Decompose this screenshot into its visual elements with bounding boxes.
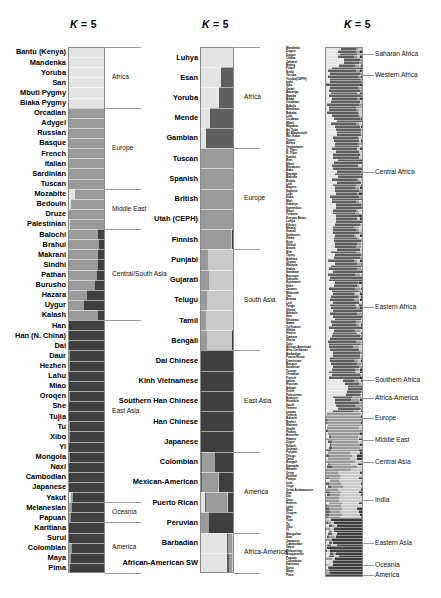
region-label: Saharan Africa <box>375 51 418 58</box>
ancestry-segment <box>69 472 105 483</box>
ancestry-segment <box>104 148 105 159</box>
row-separator <box>68 320 105 321</box>
row-separator <box>325 298 363 299</box>
panel-2-bars[interactable] <box>200 47 234 573</box>
row-separator <box>68 249 105 250</box>
row-separator <box>200 168 234 169</box>
row-separator <box>68 563 105 564</box>
panel-hgdp: K = 5 Bantu (Kenya)MandenkaYorubaSanMbut… <box>0 0 150 598</box>
row-separator <box>325 75 363 76</box>
row-separator <box>325 438 363 439</box>
row-separator <box>325 359 363 360</box>
row-separator <box>200 67 234 68</box>
region-label: America <box>244 489 268 496</box>
row-separator <box>68 219 105 220</box>
row-separator <box>68 401 105 402</box>
region-tick <box>105 320 141 321</box>
ancestry-segment <box>73 492 105 503</box>
population-label: Han <box>52 322 66 329</box>
ancestry-segment <box>70 563 105 573</box>
row-separator <box>68 411 105 412</box>
row-separator <box>325 228 363 229</box>
row-separator <box>68 57 105 58</box>
ancestry-segment <box>207 330 233 351</box>
row-separator <box>325 128 363 129</box>
ancestry-segment <box>201 189 234 210</box>
row-separator <box>325 488 363 489</box>
row-separator <box>325 318 363 319</box>
row-separator <box>325 510 363 511</box>
region-label: Western Africa <box>375 72 418 79</box>
ancestry-segment <box>209 512 234 533</box>
ancestry-segment <box>68 148 104 159</box>
population-label: Maya <box>48 554 67 561</box>
row-separator <box>325 136 363 137</box>
ancestry-segment <box>201 431 234 452</box>
row-separator <box>325 72 363 73</box>
ancestry-segment <box>104 138 105 149</box>
population-label: Sardinian <box>32 170 66 177</box>
panel-3-bars[interactable] <box>325 47 363 577</box>
row-separator <box>325 262 363 263</box>
row-separator <box>68 543 105 544</box>
row-separator <box>325 574 363 575</box>
row-separator <box>325 555 363 556</box>
population-label: Dai <box>54 342 66 349</box>
region-label: America <box>375 572 399 579</box>
population-label: Mende <box>175 114 198 121</box>
row-separator <box>325 368 363 369</box>
population-label: Colombian <box>160 458 198 465</box>
row-separator <box>325 83 363 84</box>
row-separator <box>325 424 363 425</box>
row-separator <box>325 465 363 466</box>
micro-population-label: Pima <box>286 574 293 577</box>
ancestry-segment <box>201 168 234 189</box>
ancestry-segment <box>233 290 234 311</box>
population-label: Tuscan <box>41 180 66 187</box>
row-separator <box>325 125 363 126</box>
region-label: Middle East <box>375 437 409 444</box>
ancestry-segment <box>69 401 105 412</box>
row-separator <box>325 407 363 408</box>
panel-1-bars[interactable] <box>68 47 105 573</box>
population-label: Daur <box>49 352 66 359</box>
population-label: Mexican-American <box>133 478 198 485</box>
row-separator <box>325 457 363 458</box>
region-tick <box>363 565 374 566</box>
ancestry-segment <box>69 310 99 321</box>
ancestry-segment <box>207 290 233 311</box>
row-separator <box>325 147 363 148</box>
k-italic: K <box>344 18 352 30</box>
region-tick <box>105 502 141 503</box>
row-separator <box>325 290 363 291</box>
row-separator <box>325 516 363 517</box>
population-label: Orcadian <box>34 109 66 116</box>
row-separator <box>325 80 363 81</box>
ancestry-segment <box>232 229 234 250</box>
row-separator <box>325 287 363 288</box>
row-separator <box>325 398 363 399</box>
population-label: Punjabi <box>171 256 198 263</box>
row-separator <box>68 118 105 119</box>
row-separator <box>325 281 363 282</box>
population-label: Miao <box>49 382 66 389</box>
row-separator <box>68 381 105 382</box>
row-separator <box>325 50 363 51</box>
row-separator <box>325 67 363 68</box>
row-separator <box>325 161 363 162</box>
ancestry-segment <box>221 67 234 88</box>
row-separator <box>325 513 363 514</box>
population-label: Sindhi <box>43 261 66 268</box>
row-separator <box>68 148 105 149</box>
ancestry-segment <box>202 452 215 473</box>
population-label: Druze <box>45 210 66 217</box>
ancestry-segment <box>69 158 105 169</box>
ancestry-segment <box>87 290 106 301</box>
population-label: Italian <box>45 160 66 167</box>
ancestry-segment <box>68 77 104 88</box>
row-separator <box>325 502 363 503</box>
row-separator <box>325 337 363 338</box>
row-separator <box>325 499 363 500</box>
row-separator <box>325 122 363 123</box>
ancestry-segment <box>200 108 210 129</box>
